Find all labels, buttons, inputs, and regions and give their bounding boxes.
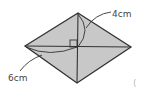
paren-mark: ( [133, 78, 137, 88]
label-6cm: 6cm [8, 73, 27, 83]
rhombus-diagram: 4cm 6cm ( [0, 0, 145, 93]
label-4cm: 4cm [112, 9, 131, 19]
leader-line-6cm [20, 55, 42, 71]
